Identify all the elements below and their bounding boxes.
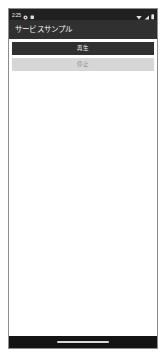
- status-bar-clock: 2:25: [12, 12, 21, 18]
- navigation-bar: [9, 336, 157, 348]
- phone-frame: 2:25: [8, 8, 158, 349]
- wifi-icon: [136, 8, 142, 24]
- screenshot-root: 2:25: [0, 0, 166, 357]
- battery-icon: [151, 8, 155, 24]
- status-bar: 2:25: [9, 9, 157, 20]
- stop-button[interactable]: 停止: [12, 58, 154, 71]
- signal-icon: [144, 8, 150, 24]
- main-content: 再生 停止: [9, 39, 157, 336]
- gear-icon: [23, 8, 28, 24]
- gesture-pill-handle[interactable]: [57, 341, 109, 344]
- status-bar-right-group: [136, 8, 154, 24]
- play-button[interactable]: 再生: [12, 42, 154, 55]
- page-title: サービスサンプル: [15, 25, 73, 34]
- app-notification-icon: [30, 8, 35, 24]
